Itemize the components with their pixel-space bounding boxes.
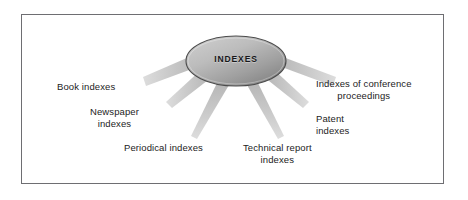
indexes-diagram: INDEXES Book indexes Newspaper indexes P… — [0, 0, 468, 200]
node-label-book-indexes: Book indexes — [57, 81, 115, 93]
node-label-technical-report-indexes: Technical report indexes — [243, 142, 312, 165]
node-label-newspaper-indexes: Newspaper indexes — [90, 106, 139, 129]
center-node — [186, 36, 286, 86]
node-label-patent-indexes: Patent indexes — [316, 113, 349, 136]
node-label-conference-proceedings: Indexes of conference proceedings — [316, 78, 412, 101]
spoke-technical-report-indexes — [247, 81, 284, 139]
node-label-periodical-indexes: Periodical indexes — [124, 142, 203, 154]
center-ellipse — [186, 36, 286, 86]
spoke-periodical-indexes — [191, 81, 229, 139]
